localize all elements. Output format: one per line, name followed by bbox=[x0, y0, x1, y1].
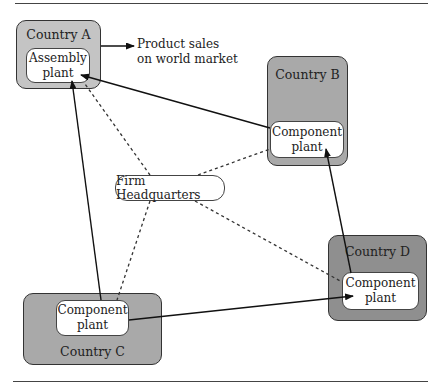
hq-to-plant-d-link bbox=[195, 201, 342, 282]
hq-to-plant-b-link bbox=[198, 149, 270, 175]
d-to-b-arrow bbox=[326, 149, 351, 273]
b-to-a-arrow bbox=[81, 75, 270, 128]
hq-to-plant-c-link bbox=[117, 201, 150, 300]
connector-layer bbox=[0, 0, 440, 385]
c-to-a-arrow bbox=[72, 81, 101, 300]
hq-to-plant-a-link bbox=[85, 84, 150, 175]
c-to-d-arrow bbox=[129, 296, 353, 320]
